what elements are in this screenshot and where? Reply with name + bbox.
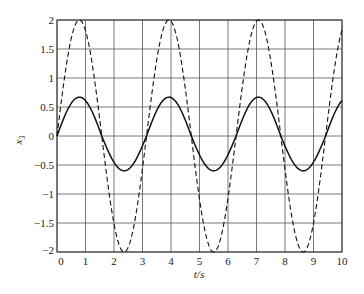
y-tick-label: 1: [49, 72, 55, 84]
y-tick-label: 0: [49, 130, 55, 142]
line-chart: 012345678910 21.510.50−0.5−1−1.5−2 t/s x…: [0, 0, 364, 294]
x-tick-label: 10: [337, 255, 349, 267]
x-tick-label: 3: [140, 255, 146, 267]
x-tick-label: 5: [197, 255, 203, 267]
x-tick-label: 8: [282, 255, 288, 267]
y-tick-label: 1.5: [40, 43, 54, 55]
x-tick-label: 4: [168, 255, 174, 267]
grid-lines: [57, 20, 342, 252]
x-tick-label: 6: [225, 255, 231, 267]
x-tick-label: 9: [311, 255, 317, 267]
x-tick-labels: 012345678910: [58, 255, 348, 267]
x-tick-label: 2: [111, 255, 117, 267]
x-axis-label: t/s: [194, 268, 204, 280]
y-tick-label: −1.5: [34, 217, 54, 229]
x-tick-label: 1: [83, 255, 89, 267]
y-tick-label: −0.5: [34, 159, 54, 171]
y-tick-label: 2: [49, 14, 55, 26]
y-tick-labels: 21.510.50−0.5−1−1.5−2: [34, 14, 54, 256]
y-axis-label: x3: [12, 136, 27, 146]
y-tick-label: 0.5: [40, 101, 54, 113]
y-tick-label: −2: [42, 244, 54, 256]
x-tick-label: 7: [254, 255, 260, 267]
x-tick-label: 0: [58, 255, 64, 267]
y-tick-label: −1: [42, 188, 54, 200]
